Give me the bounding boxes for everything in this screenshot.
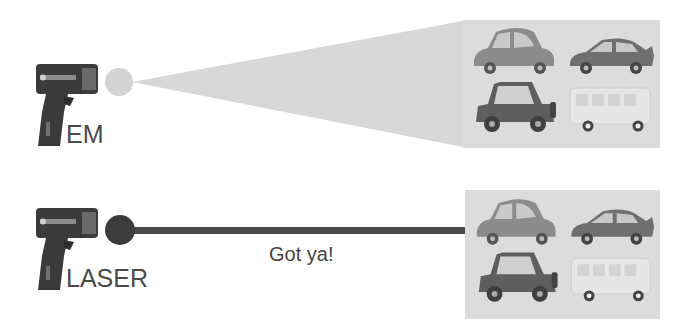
sports-car-icon xyxy=(571,210,654,245)
jeep-icon xyxy=(479,253,558,302)
laser-label: LASER xyxy=(66,266,148,291)
jeep-icon xyxy=(476,82,556,132)
minibus-icon xyxy=(570,88,650,132)
laser-vehicle-panel xyxy=(465,190,660,319)
sports-car-icon xyxy=(570,38,654,74)
em-vehicle-panel xyxy=(462,20,660,148)
minibus-icon xyxy=(571,258,650,301)
compact-car-icon xyxy=(474,28,554,74)
got-ya-caption: Got ya! xyxy=(269,244,333,264)
compact-car-icon xyxy=(477,199,556,244)
